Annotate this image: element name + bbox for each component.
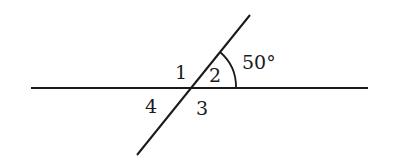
angle-arc	[220, 52, 236, 88]
angle-diagram: 1 2 3 4 50°	[0, 0, 393, 162]
angle-label-1: 1	[175, 61, 187, 83]
angle-label-2: 2	[209, 64, 221, 86]
given-angle-label: 50°	[242, 51, 276, 73]
transversal-line	[137, 15, 250, 155]
angle-label-3: 3	[196, 97, 208, 119]
angle-label-4: 4	[145, 95, 157, 117]
